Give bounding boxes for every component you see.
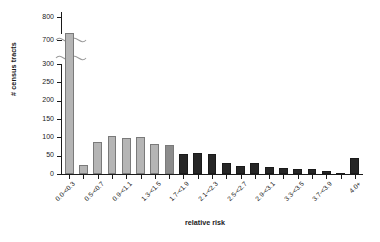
y-axis-tick (57, 174, 62, 175)
y-axis-tick (57, 40, 62, 41)
x-axis-tick-label: 3.3-<3.5 (277, 180, 305, 208)
axis-break-mask (56, 34, 62, 64)
bar (265, 167, 274, 174)
bar (150, 144, 159, 174)
bar (322, 171, 331, 174)
x-axis-tick (283, 175, 284, 179)
y-axis-tick-label: 100 (28, 133, 54, 140)
x-axis-tick (155, 175, 156, 179)
x-axis-tick-label: 2.5-<2.7 (220, 180, 248, 208)
x-axis-tick (212, 175, 213, 179)
x-axis-tick (69, 175, 70, 179)
x-axis-tick-label: 2.9-<3.1 (249, 180, 277, 208)
x-axis-tick-label: 4.0+ (334, 180, 362, 208)
y-axis-tick (57, 82, 62, 83)
x-axis-tick (355, 175, 356, 179)
bar (93, 142, 102, 174)
bar (293, 169, 302, 175)
x-axis-tick (183, 175, 184, 179)
x-axis-tick (298, 175, 299, 179)
x-axis-tick-label: 2.1-<2.3 (191, 180, 219, 208)
x-axis-tick-label: 0.9-<1.1 (106, 180, 134, 208)
bar (308, 169, 317, 174)
x-axis-tick (341, 175, 342, 179)
y-axis-tick-label: 800 (28, 13, 54, 20)
x-axis-tick (98, 175, 99, 179)
bar (79, 165, 88, 174)
bar (122, 138, 131, 174)
bar (108, 136, 117, 175)
y-axis-tick (57, 156, 62, 157)
y-axis-tick-label: 0 (28, 170, 54, 177)
x-axis-tick (83, 175, 84, 179)
histogram-chart: # census tracts relative risk 8007003002… (0, 0, 380, 242)
y-axis-tick-label: 200 (28, 96, 54, 103)
y-axis-tick-label: 300 (28, 60, 54, 67)
bar (350, 158, 359, 174)
y-axis-tick-label: 700 (28, 36, 54, 43)
x-axis-tick-label: 0.0-<0.3 (49, 180, 77, 208)
x-axis-tick (269, 175, 270, 179)
x-axis-tick (112, 175, 113, 179)
y-axis-tick-label: 150 (28, 115, 54, 122)
x-axis-tick (312, 175, 313, 179)
x-axis-tick (255, 175, 256, 179)
bar (165, 145, 174, 174)
x-axis-tick (241, 175, 242, 179)
bar (65, 33, 74, 174)
bar (279, 168, 288, 174)
x-axis-tick (126, 175, 127, 179)
x-axis-tick (326, 175, 327, 179)
x-axis-tick-label: 1.7-<1.9 (163, 180, 191, 208)
x-axis-tick-label: 0.5-<0.7 (77, 180, 105, 208)
x-axis-tick (226, 175, 227, 179)
bar (222, 163, 231, 174)
y-axis-tick-label: 250 (28, 78, 54, 85)
x-axis-tick-label: 1.3-<1.5 (134, 180, 162, 208)
bar (236, 166, 245, 174)
bar (250, 163, 259, 174)
bar (136, 137, 145, 174)
x-axis-tick (169, 175, 170, 179)
y-axis-tick (57, 64, 62, 65)
x-axis-title: relative risk (150, 218, 260, 227)
y-axis-title: # census tracts (9, 19, 23, 119)
y-axis-tick-label: 50 (28, 151, 54, 158)
y-axis-tick (57, 137, 62, 138)
x-axis-tick (141, 175, 142, 179)
y-axis-tick (57, 119, 62, 120)
bar (193, 153, 202, 174)
y-axis-tick (57, 17, 62, 18)
x-axis-tick (198, 175, 199, 179)
x-axis-tick-label: 3.7-<3.9 (306, 180, 334, 208)
y-axis-tick (57, 101, 62, 102)
bar (208, 154, 217, 174)
bar (179, 154, 188, 174)
